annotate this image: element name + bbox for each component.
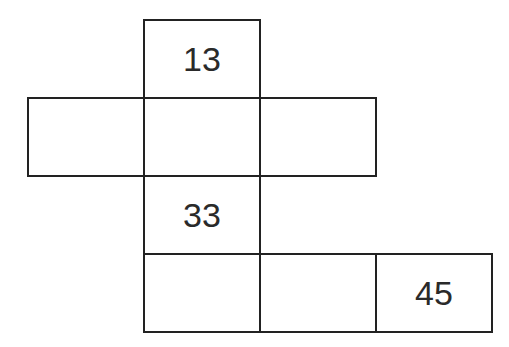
cell-bottom-right: 45 xyxy=(375,253,493,333)
cell-top: 13 xyxy=(143,19,261,99)
cell-middle-left xyxy=(27,97,145,177)
cell-lower-center: 33 xyxy=(143,175,261,255)
cell-middle-center xyxy=(143,97,261,177)
cell-bottom-left xyxy=(143,253,261,333)
cell-middle-right xyxy=(259,97,377,177)
cell-bottom-middle xyxy=(259,253,377,333)
